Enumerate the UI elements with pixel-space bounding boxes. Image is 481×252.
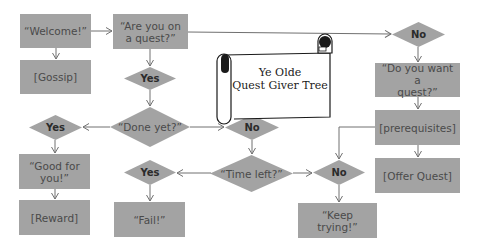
decision-done-yet: “Done yet?”: [110, 107, 190, 147]
node-gossip: [Gossip]: [20, 60, 91, 94]
decision-time-left: “Time left?”: [210, 155, 293, 192]
node-reward-label: [Reward]: [31, 212, 78, 224]
decision-time-left-label: “Time left?”: [210, 155, 293, 192]
node-gossip-label: [Gossip]: [34, 71, 77, 83]
node-offer-quest-label: [Offer Quest]: [383, 170, 452, 182]
decision-yes-on-quest: Yes: [124, 67, 176, 90]
decision-no-on-quest: No: [392, 22, 445, 47]
decision-done-yet-label: “Done yet?”: [110, 107, 190, 147]
decision-yes-time-label: Yes: [124, 160, 176, 185]
node-fail-label: “Fail!”: [133, 214, 165, 226]
node-good-for-you-line2: you!”: [40, 172, 69, 184]
node-on-quest: “Are you on a quest?”: [113, 14, 188, 49]
node-want-quest-line1: “Do you want a: [378, 62, 457, 86]
node-want-quest: “Do you want a quest?”: [375, 63, 460, 97]
decision-yes-on-quest-label: Yes: [124, 67, 176, 90]
decision-yes-done-label: Yes: [29, 115, 82, 140]
diagram-title: Ye Olde Quest Giver Tree: [230, 66, 330, 92]
node-welcome: “Welcome!”: [20, 14, 91, 48]
node-offer-quest: [Offer Quest]: [375, 158, 460, 193]
decision-yes-done: Yes: [29, 115, 82, 140]
node-fail: “Fail!”: [114, 202, 185, 237]
node-reward: [Reward]: [19, 200, 90, 235]
node-on-quest-line2: a quest?”: [125, 32, 175, 44]
decision-no-on-quest-label: No: [392, 22, 445, 47]
node-good-for-you: “Good for you!”: [19, 154, 90, 189]
node-on-quest-line1: “Are you on: [120, 20, 181, 32]
node-keep-trying: “Keep trying!”: [298, 203, 377, 238]
decision-yes-time: Yes: [124, 160, 176, 185]
title-line1: Ye Olde: [230, 66, 330, 79]
title-line2: Quest Giver Tree: [230, 79, 330, 92]
node-want-quest-line2: quest?”: [397, 86, 437, 98]
node-good-for-you-line1: “Good for: [29, 160, 80, 172]
decision-no-time-label: No: [313, 160, 365, 185]
node-prerequisites-label: [prerequisites]: [379, 122, 456, 134]
node-prerequisites: [prerequisites]: [375, 110, 460, 145]
node-welcome-label: “Welcome!”: [24, 25, 87, 37]
decision-no-time: No: [313, 160, 365, 185]
node-keep-trying-label: “Keep trying!”: [301, 209, 374, 233]
